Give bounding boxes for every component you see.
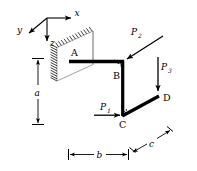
load-P3: P 3 [158, 57, 172, 91]
point-label-B: B [113, 70, 120, 81]
wall-hatching [51, 44, 57, 81]
dimension-c-arrow-near [133, 144, 147, 152]
right-angle-dot-C [126, 109, 128, 111]
load-P1-subscript: 1 [107, 107, 111, 114]
load-P2-label: P [130, 27, 138, 37]
wall-hatching-top [56, 27, 93, 47]
point-label-A: A [70, 47, 78, 58]
load-P2: P 2 [127, 27, 163, 59]
dimension-a-label: a [35, 88, 40, 98]
dimension-b: b [69, 149, 129, 160]
point-label-C: C [119, 119, 126, 130]
dimension-c: c [130, 127, 174, 153]
dimension-b-label: b [97, 150, 103, 160]
point-label-D: D [163, 92, 171, 103]
dimension-c-arrow-far [157, 131, 170, 139]
figure-svg: x y z [0, 0, 197, 171]
dimension-a: a [32, 59, 44, 125]
y-axis-label: y [16, 25, 23, 35]
dimension-c-label: c [149, 139, 154, 149]
point-labels: A B C D [70, 47, 171, 130]
dimension-c-tick-near [130, 148, 136, 153]
engineering-figure: x y z [0, 0, 197, 171]
load-P1-label: P [99, 102, 107, 112]
load-P2-subscript: 2 [137, 32, 142, 39]
load-P1: P 1 [94, 102, 120, 115]
load-P2-arrow [127, 36, 163, 59]
y-axis-arrow [29, 18, 47, 33]
x-axis-label: x [75, 8, 80, 18]
load-P3-subscript: 3 [168, 67, 172, 74]
frame-members [69, 61, 159, 117]
right-angle-dot-B [118, 62, 120, 64]
load-P3-label: P [160, 62, 168, 72]
